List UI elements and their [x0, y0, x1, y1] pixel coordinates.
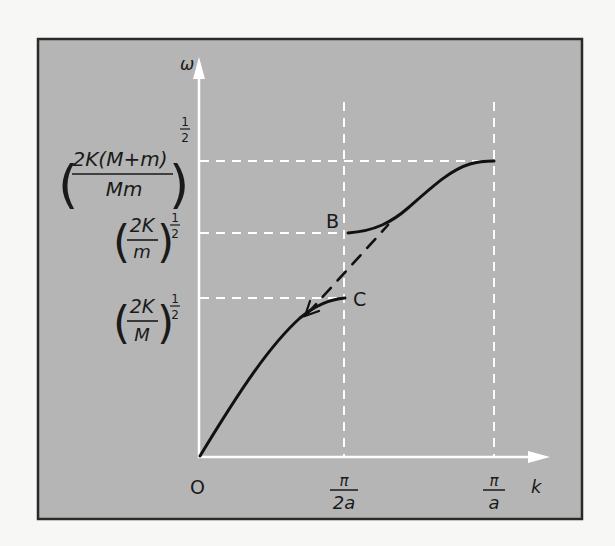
origin-label: O: [190, 476, 205, 498]
y-level-numerator: 2K(M+m): [73, 147, 168, 171]
x-tick-denominator: 2a: [333, 492, 355, 513]
y-level-numerator: 2K: [130, 295, 156, 317]
y-level-denominator: Mm: [106, 177, 143, 201]
x-tick-numerator: π: [339, 472, 349, 490]
left-paren: (: [113, 216, 130, 267]
point-label-c: C: [353, 288, 366, 310]
left-paren: (: [113, 297, 130, 348]
right-paren: ): [169, 154, 189, 214]
exponent-numerator: 1: [181, 115, 189, 129]
y-level-denominator: M: [134, 324, 150, 345]
y-level-denominator: m: [133, 241, 151, 262]
x-tick-denominator: a: [488, 492, 499, 513]
exponent-numerator: 1: [171, 211, 179, 225]
y-axis-label: ω: [180, 54, 194, 74]
point-label-b: B: [326, 210, 339, 232]
exponent-denominator: 2: [171, 227, 179, 241]
dispersion-diagram: ω k O π 2a π a ( 2K(M+m) Mm ) 1 2 ( 2K m…: [0, 0, 615, 546]
diagram-panel: [38, 39, 582, 519]
x-axis-label: k: [531, 476, 543, 497]
exponent-numerator: 1: [171, 292, 179, 306]
x-tick-numerator: π: [489, 472, 499, 490]
y-level-numerator: 2K: [130, 214, 156, 236]
exponent-denominator: 2: [171, 308, 179, 322]
exponent-denominator: 2: [181, 131, 189, 145]
